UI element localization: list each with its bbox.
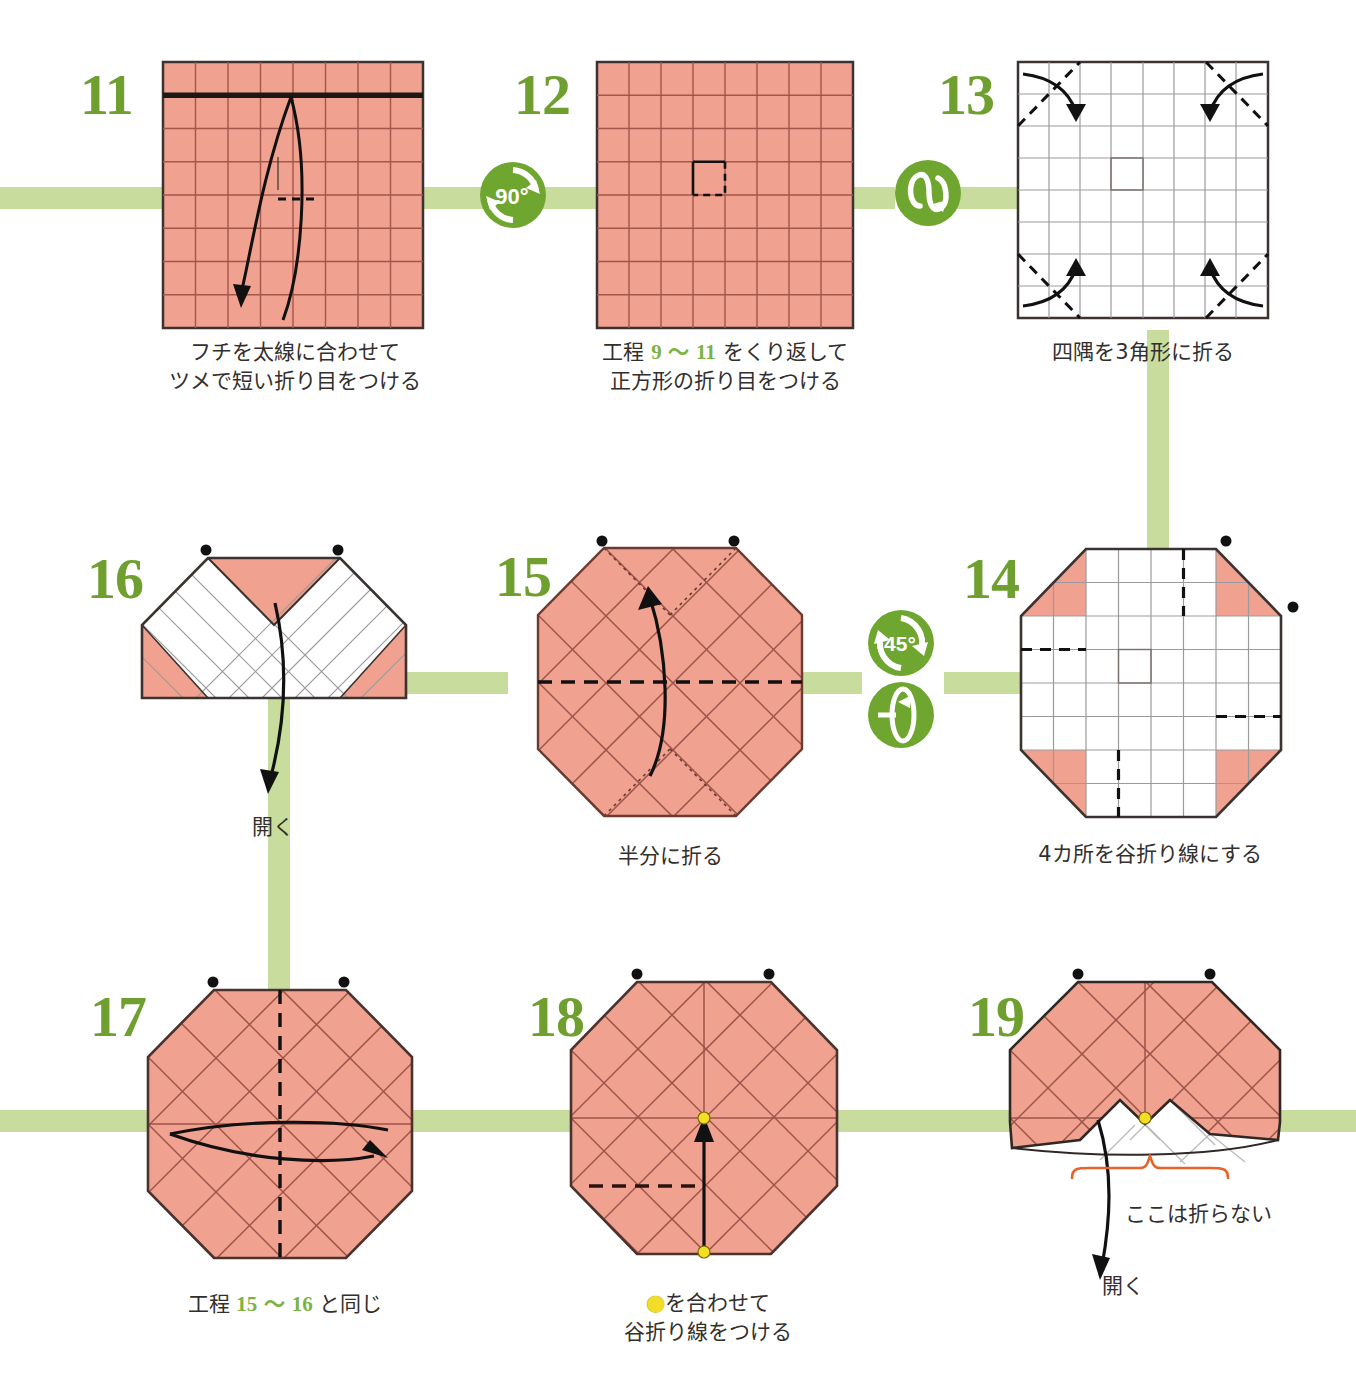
alignment-dot	[597, 536, 608, 547]
svg-text:90°: 90°	[495, 184, 528, 209]
figure-step-19	[1010, 982, 1280, 1212]
figure-step-16	[142, 558, 406, 698]
ribbon-row2-right	[944, 672, 1024, 694]
flip-horizontal-icon	[866, 680, 936, 750]
figure-step-17	[148, 990, 412, 1258]
step-number-11: 11	[80, 66, 133, 124]
rotate-90-icon: 90°	[478, 160, 548, 230]
alignment-dot	[333, 545, 344, 556]
figure-step-18	[571, 982, 837, 1254]
rotate-45-icon: 45°	[866, 608, 936, 678]
yellow-marker-bottom	[698, 1246, 710, 1258]
yellow-marker-center	[698, 1112, 710, 1124]
caption-step-17: 工程 15 ～ 16 と同じ	[170, 1290, 400, 1319]
caption-step-13: 四隅を3角形に折る	[1018, 338, 1268, 367]
alignment-dot	[764, 969, 775, 980]
figure-step-13	[1018, 62, 1268, 318]
caption-step-18: ●◯を合わせてを合わせて谷折り線をつける	[588, 1288, 828, 1347]
alignment-dot	[632, 969, 643, 980]
figure-step-15	[538, 548, 802, 816]
alignment-dot	[1288, 602, 1299, 613]
yellow-marker-center	[1139, 1112, 1151, 1124]
alignment-dot	[729, 536, 740, 547]
yellow-circle-glyph: ●	[646, 1290, 665, 1315]
caption-step-14: 4カ所を谷折り線にする	[1000, 840, 1300, 869]
step-number-12: 12	[514, 66, 570, 124]
downward-open-arrow	[1098, 1120, 1109, 1266]
caption-step-16: 開く	[218, 813, 328, 842]
alignment-dot	[1073, 969, 1084, 980]
ribbon-row3-mid	[826, 1110, 1016, 1132]
caption-line-1: を合わせて	[665, 1291, 770, 1315]
step-number-16: 16	[87, 550, 143, 608]
alignment-dot	[201, 545, 212, 556]
alignment-dot	[1205, 969, 1216, 980]
step-number-17: 17	[90, 988, 146, 1046]
ribbon-row2-mid	[800, 672, 862, 694]
caption-step-19-brace: ここは折らない	[1098, 1200, 1298, 1229]
caption-step-15: 半分に折る	[560, 842, 780, 871]
caption-step-12: 工程 9 ～ 11 をくり返して正方形の折り目をつける	[575, 338, 875, 396]
ribbon-row1-right	[957, 187, 1027, 209]
orange-brace	[1072, 1156, 1228, 1178]
turn-over-icon	[893, 158, 963, 228]
figure-step-14	[1021, 549, 1281, 817]
instruction-sheet: 11	[0, 0, 1356, 1381]
alignment-dot	[208, 977, 219, 988]
svg-text:45°: 45°	[884, 632, 916, 655]
alignment-dot	[1221, 536, 1232, 547]
caption-step-11: フチを太線に合わせてツメで短い折り目をつける	[135, 338, 455, 396]
step-number-13: 13	[938, 66, 994, 124]
caption-step-19: 開く	[1068, 1272, 1178, 1301]
alignment-dot	[339, 977, 350, 988]
figure-step-11	[163, 62, 423, 328]
step-number-14: 14	[963, 550, 1019, 608]
figure-step-12	[597, 62, 853, 328]
